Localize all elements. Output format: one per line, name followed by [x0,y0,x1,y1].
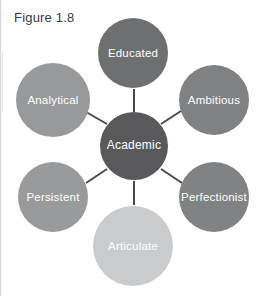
connector-ambitious [161,111,181,124]
node-articulate-label: Articulate [108,240,158,253]
node-articulate[interactable]: Articulate [93,206,173,286]
node-analytical-label: Analytical [27,94,78,107]
node-educated-label: Educated [108,47,158,60]
node-ambitious-label: Ambitious [188,94,240,107]
figure-1-8-container: Figure 1.8 Analytical Educated Ambitious… [0,0,266,296]
connector-analytical [86,112,107,124]
connector-perfectionist [161,169,182,183]
node-academic-label: Academic [107,139,161,152]
node-perfectionist-label: Perfectionist [181,191,247,204]
node-ambitious[interactable]: Ambitious [179,65,249,135]
node-persistent[interactable]: Persistent [18,162,88,232]
node-educated[interactable]: Educated [98,18,168,88]
node-academic-center[interactable]: Academic [100,112,168,180]
node-perfectionist[interactable]: Perfectionist [179,162,249,232]
node-persistent-label: Persistent [26,191,79,204]
connector-persistent [86,169,107,183]
node-analytical[interactable]: Analytical [16,63,90,137]
